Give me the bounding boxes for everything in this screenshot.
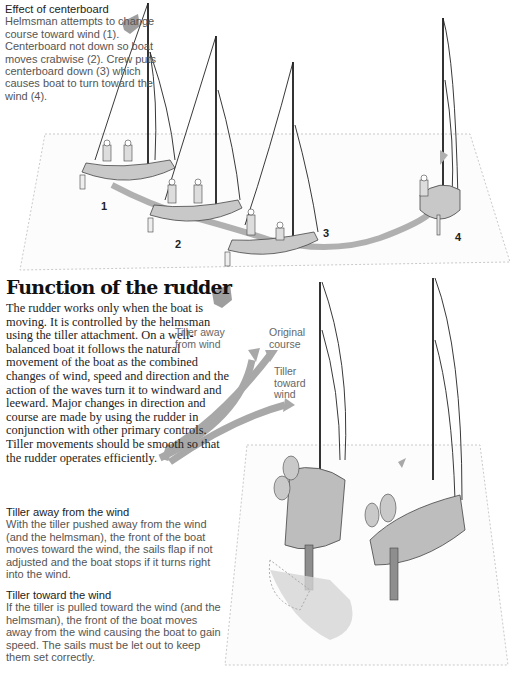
- tiller-toward-section: Tiller toward the wind If the tiller is …: [6, 589, 221, 663]
- boat-number-3: 3: [323, 227, 329, 239]
- section-title: Function of the rudder: [6, 276, 231, 298]
- boat-number-2: 2: [175, 238, 181, 250]
- water-plane-bottom: [225, 445, 508, 665]
- centerboard-caption-body: Helmsman attempts to change course towar…: [5, 15, 165, 102]
- tiller-away-section: Tiller away from the wind With the tille…: [6, 506, 221, 580]
- boat-4-illustration: [420, 18, 460, 235]
- boat-number-4: 4: [455, 231, 461, 243]
- boat-number-1: 1: [101, 200, 107, 212]
- label-tiller-toward: Tiller toward wind: [274, 366, 314, 401]
- tiller-away-body: With the tiller pushed away from the win…: [6, 518, 221, 580]
- tiller-toward-body: If the tiller is pulled toward the wind …: [6, 601, 221, 663]
- centerboard-caption-heading: Effect of centerboard: [5, 3, 165, 15]
- centerboard-caption: Effect of centerboard Helmsman attempts …: [5, 3, 165, 102]
- tiller-toward-heading: Tiller toward the wind: [6, 589, 221, 601]
- book-page: Effect of centerboard Helmsman attempts …: [0, 0, 520, 680]
- label-original-course: Original course: [269, 327, 319, 350]
- tiller-away-heading: Tiller away from the wind: [6, 506, 221, 518]
- label-tiller-away: Tiller away from wind: [175, 327, 235, 350]
